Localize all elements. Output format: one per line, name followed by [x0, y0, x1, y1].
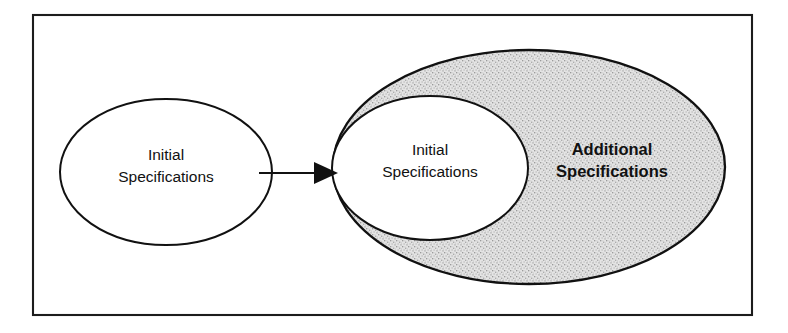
additional-specifications-label-line1: Additional [572, 140, 653, 158]
left-ellipse-label-line1: Initial [148, 146, 184, 163]
left-ellipse-label-line2: Specifications [118, 168, 214, 185]
inner-ellipse-label-line1: Initial [412, 141, 448, 158]
specifications-expansion-diagram: Initial Specifications Additional Specif… [0, 0, 788, 333]
inner-ellipse-label-line2: Specifications [382, 163, 478, 180]
diagram-canvas: Initial Specifications Additional Specif… [0, 0, 788, 333]
additional-specifications-label-line2: Specifications [556, 162, 668, 180]
